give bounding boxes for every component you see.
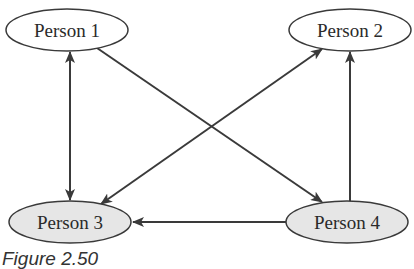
figure-caption: Figure 2.50 [2,249,98,268]
node-person-2: Person 2 [289,9,411,51]
node-label: Person 3 [37,212,103,233]
node-label: Person 4 [314,212,380,233]
node-label: Person 1 [34,20,100,41]
node-person-3: Person 3 [9,201,131,243]
edge-person1-person4 [97,48,322,202]
node-person-4: Person 4 [286,201,408,243]
node-label: Person 2 [317,20,383,41]
edges [70,48,350,222]
node-person-1: Person 1 [6,9,128,51]
